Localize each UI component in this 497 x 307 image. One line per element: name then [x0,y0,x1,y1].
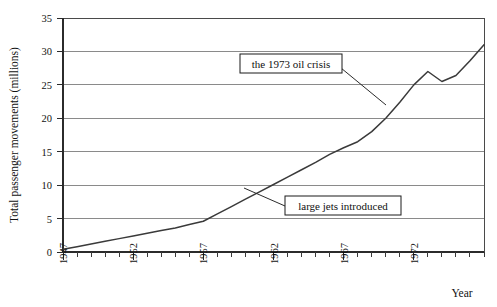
y-tick-label-25: 25 [42,80,53,91]
chart-figure: 35 30 25 20 15 10 5 0 194719521957196219… [0,0,497,307]
chart-background [0,0,497,307]
y-tick-label-0: 0 [47,247,52,258]
x-tick-label-1962: 1962 [269,243,280,264]
x-axis-title: Year [451,287,472,299]
y-tick-label-35: 35 [42,13,53,24]
oil-crisis-label: the 1973 oil crisis [252,58,331,70]
x-tick-label-1957: 1957 [198,243,209,264]
x-tick-label-1947: 1947 [58,243,69,264]
y-tick-label-15: 15 [42,147,53,158]
y-tick-label-20: 20 [42,113,53,124]
x-tick-label-1952: 1952 [128,243,139,264]
y-tick-label-10: 10 [42,180,53,191]
y-tick-label-5: 5 [47,214,52,225]
line-chart-svg: 35 30 25 20 15 10 5 0 194719521957196219… [0,0,497,307]
large-jets-label: large jets introduced [298,200,388,212]
x-tick-label-1972: 1972 [409,243,420,264]
y-axis-title: Total passenger movements (millions) [8,47,21,223]
y-tick-label-30: 30 [42,46,53,57]
x-tick-label-1967: 1967 [339,243,350,264]
